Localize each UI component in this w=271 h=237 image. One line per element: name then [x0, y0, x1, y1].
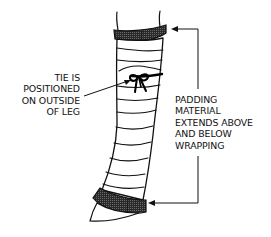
padding-label-line-5: WRAPPING — [175, 140, 253, 151]
tie-label-line-2: POSITIONED — [22, 83, 80, 94]
tie-label-line-4: OF LEG — [22, 106, 80, 117]
padding-label-line-1: PADDING — [175, 94, 253, 105]
tie-label-line-3: ON OUTSIDE — [22, 95, 80, 106]
padding-label-line-4: AND BELOW — [175, 128, 253, 139]
padding-label-line-2: MATERIAL — [175, 105, 253, 116]
upper-leg — [117, 11, 160, 30]
tie-label-line-1: TIE IS — [22, 72, 80, 83]
tie-label: TIE IS POSITIONED ON OUTSIDE OF LEG — [22, 72, 80, 118]
padding-label-line-3: EXTENDS ABOVE — [175, 117, 253, 128]
padding-label: PADDING MATERIAL EXTENDS ABOVE AND BELOW… — [175, 94, 253, 151]
